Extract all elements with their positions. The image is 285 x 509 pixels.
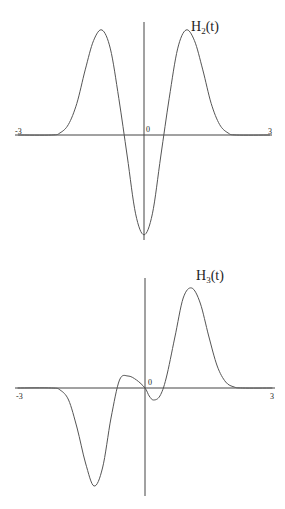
x-tick-zero: 0 <box>148 378 152 387</box>
x-tick-max: 3 <box>268 127 272 136</box>
chart-title: H3(t) <box>196 268 224 285</box>
chart-title: H2(t) <box>191 19 219 36</box>
x-tick-min: -3 <box>15 127 22 136</box>
x-tick-min: -3 <box>16 392 23 401</box>
x-tick-zero: 0 <box>146 125 150 134</box>
chart-h2: -3 0 3 H2(t) <box>15 19 272 240</box>
hermite-charts: -3 0 3 H2(t) -3 0 3 H3(t) <box>0 0 285 509</box>
x-tick-max: 3 <box>270 392 274 401</box>
chart-h3: -3 0 3 H3(t) <box>15 268 275 496</box>
